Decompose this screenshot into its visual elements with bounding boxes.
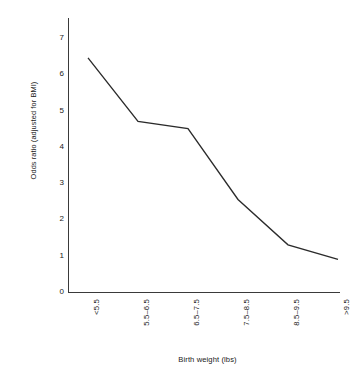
x-tick-label: 7.5–8.5 <box>242 299 251 355</box>
x-tick-label: 6.5–7.5 <box>192 299 201 355</box>
x-tick-label: <5.5 <box>92 299 101 355</box>
x-tick-label: >9.5 <box>342 299 351 355</box>
x-axis-ticks: <5.55.5–6.56.5–7.57.5–8.58.5–9.5>9.5 <box>0 0 352 374</box>
chart-figure: Odds ratio (adjusted for BMI) 01234567 <… <box>0 0 352 374</box>
x-axis-title: Birth weight (lbs) <box>70 355 345 364</box>
x-tick-label: 8.5–9.5 <box>292 299 301 355</box>
x-tick-label: 5.5–6.5 <box>142 299 151 355</box>
